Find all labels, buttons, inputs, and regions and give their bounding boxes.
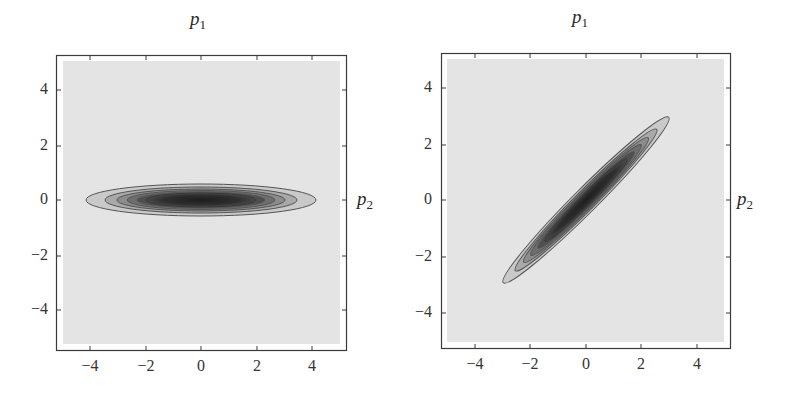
- y-tick-label: 0: [404, 190, 432, 208]
- y-tick-label: 2: [404, 135, 432, 153]
- y-tick-label: 4: [404, 78, 432, 96]
- x-tick-label: 2: [626, 355, 656, 373]
- label-var: p: [737, 188, 747, 209]
- label-sub: 2: [747, 197, 754, 212]
- x-tick-label: 0: [571, 355, 601, 373]
- x-tick-label: −4: [460, 355, 490, 373]
- right-axis-label: p2: [737, 188, 753, 213]
- x-tick-label: 4: [682, 355, 712, 373]
- y-tick-label: −2: [404, 247, 432, 265]
- contour-svg-right: [0, 0, 785, 393]
- label-sub: 1: [582, 15, 589, 30]
- x-tick-label: −2: [515, 355, 545, 373]
- label-var: p: [572, 6, 582, 27]
- y-tick-label: −4: [404, 303, 432, 321]
- top-axis-label: p1: [572, 6, 588, 31]
